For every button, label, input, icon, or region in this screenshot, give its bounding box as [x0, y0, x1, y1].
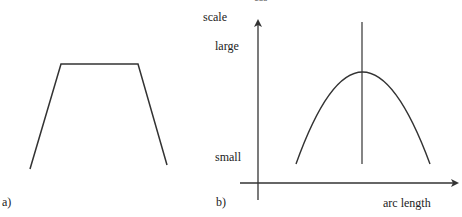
- y-axis-title: scale: [203, 11, 227, 23]
- panel-b-label: b): [216, 196, 226, 208]
- figure-graphics: [0, 0, 462, 217]
- x-axis-title: arc length: [383, 197, 431, 209]
- header-fragment: css: [254, 0, 267, 3]
- panel-a-label: a): [2, 196, 11, 208]
- trapezoid-profile: [30, 64, 167, 169]
- scale-curve: [296, 72, 430, 164]
- figure: css a) scale large small b) arc length: [0, 0, 462, 217]
- tick-large: large: [215, 40, 239, 52]
- tick-small: small: [215, 151, 241, 163]
